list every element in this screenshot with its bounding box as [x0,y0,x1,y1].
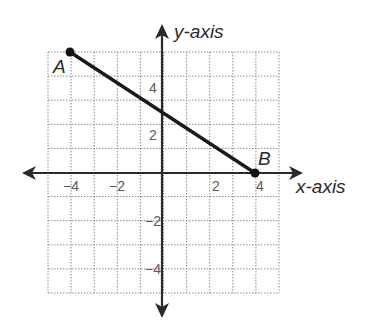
y-axis-title: y-axis [172,21,224,42]
x-tick-label-2: 2 [212,178,220,194]
point-b-marker-icon [251,169,260,178]
y-tick-label-neg2: −2 [145,213,161,229]
x-tick-label-neg4: −4 [63,178,79,194]
y-tick-label-2: 2 [149,127,157,143]
coordinate-plane: y-axis x-axis −4 −2 2 4 4 2 −2 −4 A B [0,0,368,336]
y-tick-label-neg4: −4 [145,261,161,277]
y-tick-label-4: 4 [149,80,157,96]
x-tick-label-neg2: −2 [109,178,125,194]
point-a-marker-icon [66,48,75,57]
x-tick-label-4: 4 [256,178,264,194]
point-b-label: B [258,148,271,169]
x-axis-title: x-axis [295,176,346,197]
point-a-label: A [52,56,66,77]
